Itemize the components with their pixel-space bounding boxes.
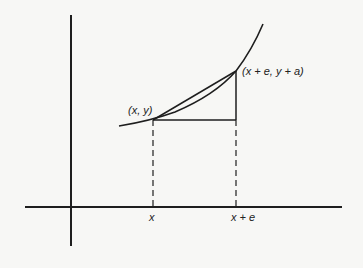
- label-tick-xe: x + e: [230, 211, 255, 223]
- label-point-end: (x + e, y + a): [242, 65, 304, 77]
- label-point-start: (x, y): [128, 104, 153, 116]
- secant-line: [153, 71, 236, 120]
- diagram-canvas: (x, y) (x + e, y + a) x x + e: [0, 0, 363, 268]
- label-tick-x: x: [148, 211, 155, 223]
